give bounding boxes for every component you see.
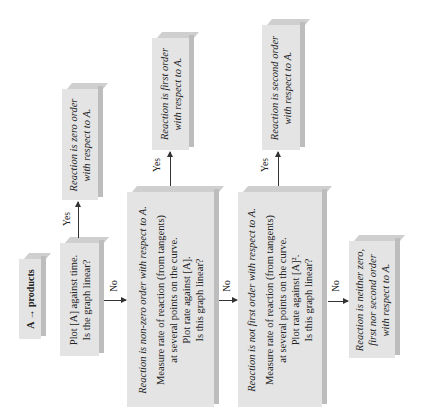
not-first-order-node: Reaction is not first order with respect… [238, 192, 322, 407]
plot-a-vs-time-node: Plot [A] against time. Is the graph line… [60, 243, 99, 356]
not-first-heading: Reaction is not first order with respect… [245, 208, 258, 392]
no-label-neither: No [331, 280, 341, 292]
first-order-node: Reaction is first order with respect to … [152, 38, 189, 150]
non-zero-heading: Reaction is non-zero order with respect … [136, 206, 149, 394]
start-label: A → products [25, 269, 36, 328]
not-first-line-2: at several points on the curve. [276, 208, 289, 392]
not-first-line-4: Is this graph linear? [302, 208, 315, 392]
neither-line-2: first nor second order [366, 248, 379, 350]
non-zero-line-4: Is this graph linear? [193, 206, 206, 394]
non-zero-line-3: Plot rate against [A]. [180, 206, 193, 394]
yes-label-second: Yes [260, 158, 270, 172]
start-node: A → products [19, 259, 41, 339]
yes-arrow-second [278, 152, 279, 186]
zero-order-line-2: with respect to A. [80, 98, 93, 191]
not-first-line-3: Plot rate against [A]². [289, 208, 302, 392]
first-order-line-2: with respect to A. [171, 48, 184, 140]
neither-order-node: Reaction is neither zero, first nor seco… [349, 241, 395, 358]
second-order-node: Reaction is second order with respect to… [262, 25, 300, 150]
no-arrow-notfirst [219, 300, 237, 301]
second-order-line-2: with respect to A. [281, 35, 294, 139]
non-zero-line-1: Measure rate of reaction (from tangents) [154, 206, 167, 394]
second-order-line-1: Reaction is second order [268, 35, 281, 139]
no-label-nonzero: No [109, 280, 119, 292]
yes-arrow-zero [78, 202, 79, 238]
no-label-notfirst: No [222, 280, 232, 292]
no-arrow-nonzero [104, 300, 126, 301]
neither-line-1: Reaction is neither zero, [353, 248, 366, 350]
first-order-line-1: Reaction is first order [158, 48, 171, 140]
plot-a-line-2: Is the graph linear? [80, 254, 93, 344]
plot-a-line-1: Plot [A] against time. [67, 254, 80, 344]
not-first-line-1: Measure rate of reaction (from tangents) [263, 208, 276, 392]
no-arrow-neither [328, 301, 348, 302]
non-zero-order-node: Reaction is non-zero order with respect … [127, 192, 214, 407]
yes-arrow-first [170, 152, 171, 186]
neither-line-3: with respect to A. [379, 248, 392, 350]
zero-order-node: Reaction is zero order with respect to A… [62, 89, 98, 200]
zero-order-line-1: Reaction is zero order [67, 98, 80, 191]
yes-label-first: Yes [152, 158, 162, 172]
non-zero-line-2: at several points on the curve. [167, 206, 180, 394]
yes-label-zero: Yes [62, 212, 72, 226]
